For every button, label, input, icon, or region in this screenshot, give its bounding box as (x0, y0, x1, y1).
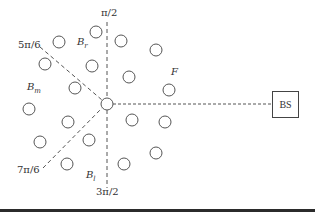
cluster-diagram (0, 0, 315, 212)
sensor-node (90, 26, 102, 38)
br-sub: r (84, 42, 87, 50)
label-5pi-6: 5π/6 (18, 40, 41, 50)
region-label-bm: Bm (27, 82, 41, 95)
sensor-node (39, 58, 51, 70)
sensor-node (86, 60, 98, 72)
base-station-box: BS (272, 91, 299, 118)
sensor-node (53, 36, 65, 48)
sensor-node (83, 134, 95, 146)
region-label-bl: Bl (86, 170, 96, 183)
sensor-node (126, 114, 138, 126)
sensor-node (159, 116, 171, 128)
label-3pi-2: 3π/2 (96, 187, 119, 197)
sensor-node (115, 35, 127, 47)
sensor-node (61, 158, 73, 170)
sensor-node (163, 84, 175, 96)
sensor-node (150, 147, 162, 159)
sensor-node (69, 82, 81, 94)
sensor-node (118, 158, 130, 170)
sensor-node (123, 71, 135, 83)
label-7pi-6: 7π/6 (17, 165, 40, 175)
label-pi-2: π/2 (101, 8, 117, 18)
sensor-node (150, 44, 162, 56)
sensor-node (34, 136, 46, 148)
bl-sub: l (93, 175, 95, 183)
sensor-node (62, 116, 74, 128)
cluster-head-node (101, 98, 113, 110)
region-label-br: Br (77, 37, 88, 50)
region-label-f: F (171, 67, 178, 77)
bm-sub: m (34, 87, 41, 95)
bottom-divider (0, 209, 315, 212)
sensor-node (23, 103, 35, 115)
